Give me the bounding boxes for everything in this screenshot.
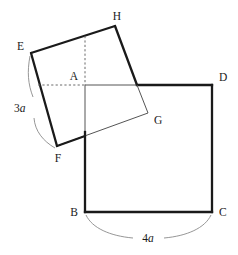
geometry-svg: A B C D E F G H 3a 4a [0, 0, 238, 255]
measure-4a-unit: a [148, 232, 154, 244]
vertex-label-G: G [154, 114, 162, 126]
brace-arc-4a-right [164, 215, 211, 238]
measure-label-4a: 4a [142, 232, 154, 244]
segment-EF [31, 53, 57, 146]
vertex-label-A: A [70, 70, 79, 82]
vertex-label-H: H [113, 10, 121, 22]
vertex-label-D: D [219, 71, 227, 83]
vertex-label-C: C [219, 206, 227, 218]
geometry-figure: A B C D E F G H 3a 4a [0, 0, 238, 255]
vertex-label-E: E [17, 40, 24, 52]
measure-label-3a: 3a [14, 102, 26, 114]
measure-3a-unit: a [20, 102, 26, 114]
segment-EH [31, 26, 115, 53]
vertex-label-B: B [70, 206, 78, 218]
brace-arc-3a-lower [34, 118, 55, 148]
segment-HG-lower [137, 85, 148, 113]
vertex-label-F: F [55, 152, 61, 164]
segment-FG-outer-stub [57, 136, 85, 146]
brace-arc-4a-left [86, 215, 133, 238]
segment-HG-upper [115, 26, 137, 85]
brace-arc-3a-upper [28, 56, 33, 97]
